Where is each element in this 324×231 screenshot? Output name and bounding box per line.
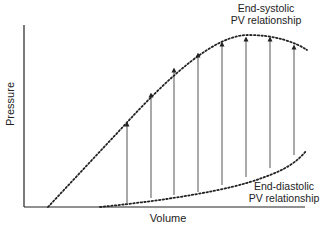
end-systolic-line1: End-systolic — [228, 2, 304, 14]
arrows-group — [127, 39, 294, 203]
end-diastolic-line2: PV relationship — [244, 192, 324, 204]
x-axis-label: Volume — [138, 212, 198, 224]
end-diastolic-label: End-diastolic PV relationship — [244, 180, 324, 204]
end-diastolic-line1: End-diastolic — [244, 180, 324, 192]
end-systolic-label: End-systolic PV relationship — [228, 2, 304, 26]
end-systolic-line2: PV relationship — [228, 14, 304, 26]
y-axis-label: Pressure — [4, 74, 16, 134]
